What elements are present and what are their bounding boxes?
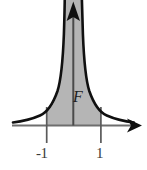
function-plot-figure: -1 1 F [0, 0, 147, 170]
shaded-region-label: F [73, 89, 83, 105]
tick-label-neg-one: -1 [36, 146, 48, 161]
tick-label-pos-one: 1 [96, 146, 104, 161]
plot-canvas [0, 0, 147, 170]
